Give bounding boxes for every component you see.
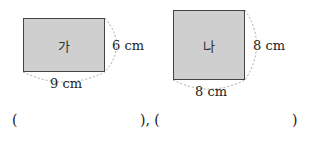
square-na: 나 [173, 10, 245, 80]
rectangle-ga: 가 [23, 18, 105, 72]
answer-separator: ), ( [140, 112, 160, 128]
rectangle-ga-width: 9 cm [50, 76, 82, 91]
rectangle-ga-label: 가 [24, 36, 104, 55]
rectangle-ga-height: 6 cm [112, 38, 144, 53]
answer-blank-1-open: ( [12, 112, 17, 128]
answer-blank-2-close: ) [292, 112, 297, 128]
square-na-width: 8 cm [195, 84, 227, 99]
square-na-height: 8 cm [253, 38, 285, 53]
square-na-label: 나 [174, 36, 244, 55]
